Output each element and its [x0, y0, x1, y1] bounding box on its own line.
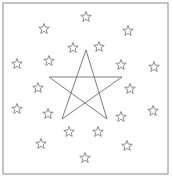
flag-frame — [3, 3, 168, 174]
star-icon — [122, 141, 132, 151]
flag-illustration — [0, 0, 173, 184]
star-icon — [81, 12, 91, 22]
star-icon — [148, 106, 158, 116]
star-icon — [43, 109, 53, 119]
star-icon — [94, 42, 104, 52]
star-icon — [33, 83, 43, 93]
star-icon — [80, 153, 90, 163]
star-icon — [12, 104, 22, 114]
star-icon — [36, 139, 46, 149]
star-icon — [93, 127, 103, 137]
star-icon — [39, 24, 49, 34]
star-icon — [64, 127, 74, 137]
star-icon — [123, 26, 133, 36]
star-icon — [68, 43, 78, 53]
star-icon — [149, 62, 159, 72]
star-icon — [125, 84, 135, 94]
star-icon — [44, 56, 54, 66]
star-icon — [116, 112, 126, 122]
star-icon — [116, 60, 126, 70]
central-pentagram-icon — [49, 50, 122, 119]
star-icon — [12, 59, 22, 69]
